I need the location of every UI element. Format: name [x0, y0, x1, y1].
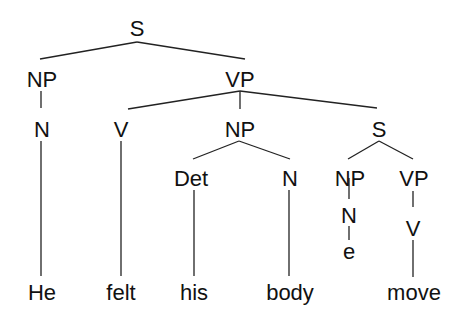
node-np-object: NP [225, 117, 256, 142]
edge-np-n [239, 141, 290, 159]
node-n-empty: N [341, 203, 357, 228]
node-vp-main: VP [225, 67, 254, 92]
edge-s-np [40, 42, 137, 59]
edge-s-np [348, 141, 379, 159]
word-move: move [387, 280, 441, 305]
edge-vp-v [128, 91, 240, 109]
node-np-subject: NP [27, 67, 58, 92]
node-det: Det [174, 166, 208, 191]
syntax-tree-diagram: S NP VP N V NP S Det N NP VP N V e He fe… [0, 0, 468, 316]
word-felt: felt [106, 280, 135, 305]
word-he: He [28, 280, 56, 305]
tree-words: He felt his body move [28, 280, 441, 305]
node-s-root: S [130, 16, 145, 41]
node-np-embedded: NP [335, 166, 366, 191]
tree-canvas: S NP VP N V NP S Det N NP VP N V e He fe… [0, 0, 468, 316]
node-v-move: V [406, 216, 421, 241]
edge-np-det [193, 141, 239, 159]
word-body: body [266, 280, 314, 305]
node-n-he: N [34, 117, 50, 142]
node-n-body: N [282, 166, 298, 191]
node-empty-category: e [343, 239, 355, 264]
node-s-embedded: S [372, 117, 387, 142]
edge-s-vp [379, 141, 413, 159]
edge-s-vp [137, 42, 245, 59]
tree-nodes: S NP VP N V NP S Det N NP VP N V e [27, 16, 429, 264]
word-his: his [180, 280, 208, 305]
node-vp-embedded: VP [399, 166, 428, 191]
edge-vp-s [240, 91, 377, 108]
node-v-felt: V [114, 117, 129, 142]
